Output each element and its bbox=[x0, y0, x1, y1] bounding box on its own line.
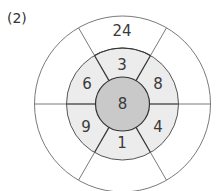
middle-upper-right-value: 8 bbox=[153, 75, 163, 93]
number-wheel-diagram: 24 3 8 4 1 9 6 8 bbox=[0, 0, 217, 191]
middle-lower-right-value: 4 bbox=[153, 118, 163, 136]
middle-upper-left-value: 6 bbox=[82, 75, 92, 93]
middle-top-value: 3 bbox=[117, 56, 127, 74]
middle-bottom-value: 1 bbox=[117, 134, 127, 152]
center-value: 8 bbox=[118, 95, 128, 113]
outer-top-value: 24 bbox=[112, 22, 131, 40]
middle-lower-left-value: 9 bbox=[81, 118, 91, 136]
